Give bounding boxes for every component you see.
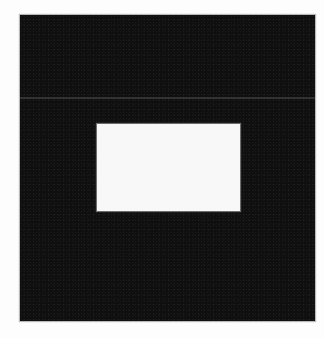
white-rectangle [97,124,240,211]
dark-square [20,15,315,321]
horizontal-band [20,97,315,99]
photo [0,0,324,338]
